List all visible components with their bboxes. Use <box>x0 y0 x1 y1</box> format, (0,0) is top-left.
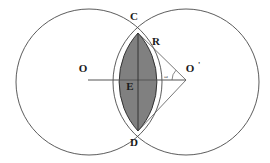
label-center-left-o: O <box>79 62 88 74</box>
label-angle-omega: ω <box>164 74 168 79</box>
label-prime-mark: ' <box>198 61 200 70</box>
geometry-canvas: O O ' C D E R ω <box>0 0 270 163</box>
label-center-right-o-prime: O <box>186 62 195 74</box>
label-chord-midpoint-e: E <box>126 80 133 92</box>
geometry-figure: O O ' C D E R ω <box>0 0 270 163</box>
label-top-intersection-c: C <box>130 10 138 22</box>
label-radius-r: R <box>152 35 161 47</box>
label-bottom-intersection-d: D <box>130 136 138 148</box>
